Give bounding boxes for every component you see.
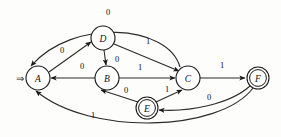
transition-label-d-b: 0 [115,54,119,64]
state-label-d: D [99,34,107,44]
transition-label-c-a: 0 [106,7,110,17]
start-arrow-marker: ⇒ [16,73,24,84]
state-node-f: F [247,67,269,89]
transition-label-f-e: 0 [207,92,211,102]
transition-label-a-d: 0 [60,45,64,55]
state-node-e: E [136,97,158,119]
state-node-d: D [91,26,115,50]
transition-label-b-a: 0 [80,61,84,71]
transition-edge-f-e [159,86,250,110]
transition-edge-e-b [101,90,138,102]
state-label-c: C [185,74,192,84]
transition-label-d-c: 1 [146,36,150,46]
transition-label-e-c: 1 [165,84,169,94]
automaton-diagram: ADBCEF 00001110101 ⇒ [0,0,281,137]
transition-label-b-c: 1 [138,62,142,72]
state-label-b: B [104,74,110,84]
automaton-svg: ADBCEF 00001110101 ⇒ [0,0,281,137]
state-node-b: B [95,66,119,90]
transition-label-e-b: 0 [124,85,128,95]
state-node-a: A [26,66,50,90]
transition-edge-d-c [114,44,179,71]
transition-label-f-a: 1 [91,110,95,120]
state-label-a: A [34,74,41,84]
state-node-c: C [176,66,200,90]
state-label-f: F [254,74,261,84]
transition-edge-d-b [104,50,106,65]
state-label-e: E [143,104,150,114]
transition-label-c-f: 1 [220,60,224,70]
